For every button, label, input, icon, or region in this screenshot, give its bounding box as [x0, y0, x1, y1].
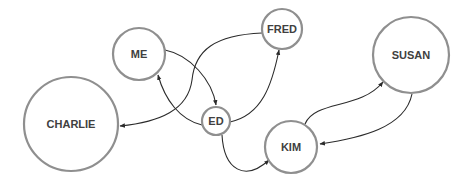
- edge-ed-to-kim: [222, 135, 269, 171]
- edge-kim-to-susan: [305, 82, 383, 124]
- edge-ed-to-me: [158, 75, 202, 125]
- node-ed: ED: [202, 107, 230, 135]
- node-kim: KIM: [265, 121, 317, 173]
- node-me: ME: [113, 28, 165, 80]
- relationship-diagram: ME FRED ED CHARLIE SUSAN KIM: [0, 0, 472, 184]
- nodes-layer: ME FRED ED CHARLIE SUSAN KIM: [24, 9, 449, 173]
- node-fred-label: FRED: [267, 23, 297, 35]
- edge-susan-to-kim: [320, 94, 412, 144]
- node-susan-label: SUSAN: [392, 49, 431, 61]
- node-fred: FRED: [262, 9, 302, 49]
- node-me-label: ME: [131, 48, 148, 60]
- node-ed-label: ED: [208, 115, 223, 127]
- node-susan: SUSAN: [373, 17, 449, 93]
- node-charlie: CHARLIE: [24, 77, 118, 171]
- node-kim-label: KIM: [281, 141, 301, 153]
- edge-me-to-ed: [165, 50, 216, 105]
- edge-ed-to-fred: [230, 50, 279, 122]
- node-charlie-label: CHARLIE: [47, 118, 96, 130]
